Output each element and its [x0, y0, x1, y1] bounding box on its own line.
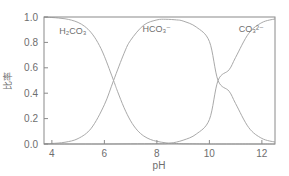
y-tick-label-0.6: 0.6 [24, 62, 38, 73]
x-tick-label-8: 8 [154, 148, 160, 159]
y-axis-title: 比率 [2, 72, 13, 90]
curve-label-h2co3: H₂CO₃ [59, 26, 86, 36]
carbonate-speciation-chart: 4681012 0.00.20.40.60.81.0 pH 比率 H₂CO₃HC… [0, 0, 289, 176]
x-tick-label-12: 12 [256, 148, 268, 159]
y-tick-label-0.8: 0.8 [24, 37, 38, 48]
y-tick-label-0.2: 0.2 [24, 113, 38, 124]
y-tick-label-1.0: 1.0 [24, 12, 38, 23]
y-tick-label-0.0: 0.0 [24, 139, 38, 150]
plot-area-background [44, 17, 275, 144]
x-tick-label-10: 10 [204, 148, 216, 159]
x-tick-label-4: 4 [49, 148, 55, 159]
curve-label-hco3: HCO₃⁻ [143, 24, 172, 34]
y-tick-label-0.4: 0.4 [24, 88, 38, 99]
chart-canvas: 4681012 0.00.20.40.60.81.0 pH 比率 H₂CO₃HC… [0, 0, 289, 176]
x-axis-title: pH [153, 160, 166, 171]
curve-label-co3: CO₃²⁻ [239, 24, 264, 34]
x-tick-label-6: 6 [102, 148, 108, 159]
